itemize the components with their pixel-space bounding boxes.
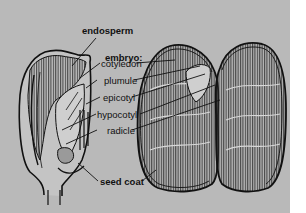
label-plumule: plumule <box>104 75 137 86</box>
cross-section-cotyledons <box>138 43 286 191</box>
seed-illustration <box>0 0 306 213</box>
label-radicle: radicle <box>107 125 135 136</box>
label-seed-coat: seed coat <box>100 176 144 187</box>
label-hypocotyl: hypocotyl <box>97 109 137 120</box>
label-epicotyl: epicotyl <box>103 92 135 103</box>
label-endosperm: endosperm <box>82 25 133 36</box>
longitudinal-seed-section <box>19 50 90 205</box>
radicle-shape <box>58 148 74 164</box>
label-cotyledon: cotyledon <box>101 58 142 69</box>
